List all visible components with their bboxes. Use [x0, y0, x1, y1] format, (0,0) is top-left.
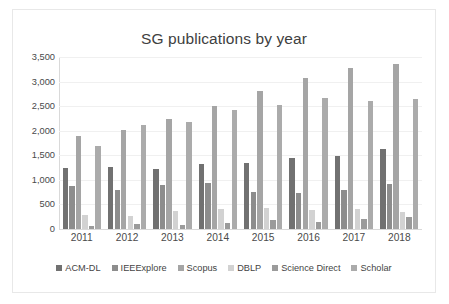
bar[interactable]: [63, 168, 68, 229]
bar[interactable]: [257, 91, 262, 229]
x-tick-label: 2016: [286, 232, 331, 243]
y-axis-tick-labels: 3,5003,0002,5002,0001,5001,0005000: [13, 57, 55, 229]
plot-area: [59, 57, 422, 229]
bar-group: [59, 57, 104, 229]
bar-group: [377, 57, 422, 229]
legend-swatch-icon: [228, 265, 234, 271]
x-tick-label: 2017: [331, 232, 376, 243]
x-tick-label: 2012: [104, 232, 149, 243]
bar[interactable]: [115, 190, 120, 229]
legend-label: Scopus: [187, 263, 218, 273]
x-tick-label: 2018: [377, 232, 422, 243]
y-tick-label: 3,000: [15, 77, 55, 87]
y-tick-label: 3,500: [15, 52, 55, 62]
bar[interactable]: [341, 190, 346, 229]
bar[interactable]: [141, 125, 146, 229]
chart-title: SG publications by year: [13, 30, 435, 48]
bar[interactable]: [264, 208, 269, 229]
bar[interactable]: [316, 222, 321, 229]
bar[interactable]: [270, 220, 275, 229]
bar[interactable]: [218, 209, 223, 229]
x-tick-label: 2013: [150, 232, 195, 243]
y-tick-label: 2,500: [15, 101, 55, 111]
x-tick-label: 2015: [241, 232, 286, 243]
bar[interactable]: [387, 184, 392, 229]
bar[interactable]: [232, 110, 237, 229]
legend-swatch-icon: [351, 265, 357, 271]
legend-swatch-icon: [56, 265, 62, 271]
bar[interactable]: [348, 68, 353, 229]
legend-label: Scholar: [360, 263, 391, 273]
bar[interactable]: [95, 146, 100, 229]
bar-groups: [59, 57, 422, 229]
legend-swatch-icon: [272, 265, 278, 271]
bar[interactable]: [244, 163, 249, 229]
bar[interactable]: [180, 225, 185, 229]
bar[interactable]: [400, 212, 405, 229]
bar[interactable]: [393, 64, 398, 229]
bar[interactable]: [89, 226, 94, 229]
bar-group: [241, 57, 286, 229]
legend-item[interactable]: Science Direct: [272, 263, 340, 273]
bar[interactable]: [166, 119, 171, 229]
y-tick-label: 2,000: [15, 126, 55, 136]
bar[interactable]: [69, 186, 74, 229]
bar[interactable]: [413, 99, 418, 229]
bar-group: [104, 57, 149, 229]
legend-item[interactable]: Scholar: [351, 263, 391, 273]
bar[interactable]: [128, 216, 133, 229]
bar[interactable]: [76, 136, 81, 229]
bar[interactable]: [205, 183, 210, 229]
bar[interactable]: [251, 192, 256, 229]
legend-label: Science Direct: [281, 263, 340, 273]
bar[interactable]: [277, 105, 282, 229]
legend-label: IEEExplore: [121, 263, 167, 273]
y-tick-label: 0: [15, 224, 55, 234]
bar-group: [331, 57, 376, 229]
bar-group: [150, 57, 195, 229]
bar[interactable]: [225, 223, 230, 229]
bar[interactable]: [406, 217, 411, 229]
bar[interactable]: [309, 210, 314, 229]
axis-baseline: [59, 229, 422, 230]
chart-legend: ACM-DLIEEExploreScopusDBLPScience Direct…: [13, 263, 435, 273]
y-tick-label: 1,000: [15, 175, 55, 185]
legend-swatch-icon: [178, 265, 184, 271]
bar[interactable]: [82, 215, 87, 229]
legend-swatch-icon: [112, 265, 118, 271]
legend-item[interactable]: DBLP: [228, 263, 261, 273]
bar[interactable]: [186, 122, 191, 229]
bar[interactable]: [199, 164, 204, 229]
bar[interactable]: [121, 130, 126, 229]
bar[interactable]: [322, 98, 327, 229]
legend-item[interactable]: Scopus: [178, 263, 218, 273]
y-tick-label: 500: [15, 199, 55, 209]
legend-item[interactable]: IEEExplore: [112, 263, 167, 273]
bar[interactable]: [173, 211, 178, 229]
x-tick-label: 2011: [59, 232, 104, 243]
bar-group: [286, 57, 331, 229]
bar[interactable]: [212, 106, 217, 229]
bar[interactable]: [303, 78, 308, 229]
bar[interactable]: [361, 219, 366, 229]
bar[interactable]: [153, 169, 158, 229]
legend-item[interactable]: ACM-DL: [56, 263, 100, 273]
chart-card: SG publications by year 3,5003,0002,5002…: [12, 9, 436, 293]
bar-group: [195, 57, 240, 229]
bar[interactable]: [134, 224, 139, 229]
bar[interactable]: [355, 209, 360, 229]
bar[interactable]: [108, 167, 113, 229]
x-tick-label: 2014: [195, 232, 240, 243]
y-tick-label: 1,500: [15, 150, 55, 160]
bar[interactable]: [289, 158, 294, 229]
bar[interactable]: [368, 101, 373, 229]
legend-label: ACM-DL: [65, 263, 100, 273]
legend-label: DBLP: [237, 263, 261, 273]
x-axis-tick-labels: 20112012201320142015201620172018: [59, 232, 422, 243]
bar[interactable]: [380, 149, 385, 229]
bar[interactable]: [335, 156, 340, 229]
bar[interactable]: [160, 185, 165, 229]
bar[interactable]: [296, 193, 301, 229]
